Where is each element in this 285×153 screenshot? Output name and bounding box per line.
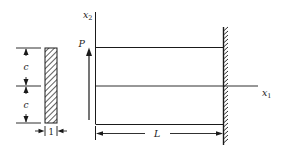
dimension-upper-c: c bbox=[24, 49, 29, 86]
arrow-up-icon bbox=[24, 49, 29, 56]
arrow-up-icon bbox=[86, 48, 92, 57]
label-x1-axis: x1 bbox=[262, 87, 272, 100]
arrow-right-icon bbox=[39, 129, 45, 133]
arrow-left-icon bbox=[96, 131, 103, 135]
cross-section-rect bbox=[45, 48, 57, 123]
cantilever-beam-diagram: c c 1 P x2 bbox=[0, 0, 285, 153]
dimension-lower-c: c bbox=[24, 87, 29, 123]
label-thickness: 1 bbox=[49, 127, 54, 137]
label-load: P bbox=[78, 38, 86, 49]
arrow-left-icon bbox=[58, 129, 64, 133]
label-x2-axis: x2 bbox=[83, 9, 93, 22]
dimension-thickness: 1 bbox=[35, 126, 67, 137]
label-length: L bbox=[153, 128, 160, 139]
arrow-down-icon bbox=[24, 116, 29, 123]
arrow-up-icon bbox=[24, 87, 29, 94]
arrow-right-icon bbox=[216, 131, 223, 135]
load-p: P bbox=[78, 38, 93, 120]
label-c-upper: c bbox=[24, 62, 29, 72]
cross-section: c c 1 bbox=[16, 48, 67, 137]
axes: x2 x1 bbox=[83, 9, 272, 124]
arrow-down-icon bbox=[24, 79, 29, 86]
dimension-length: L bbox=[96, 126, 224, 140]
label-c-lower: c bbox=[24, 100, 29, 110]
